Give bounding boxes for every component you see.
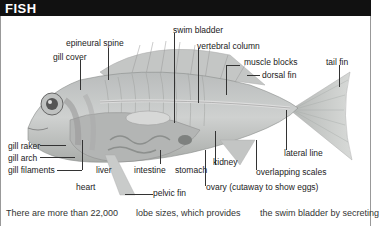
label-stomach: stomach [175,165,207,175]
label-gill-filaments: gill filaments [8,165,55,175]
label-lateral-line: lateral line [284,148,323,158]
body-text-column-2: lobe sizes, which provides [136,208,241,218]
label-gill-cover: gill cover [53,52,87,62]
label-muscle-blocks: muscle blocks [244,57,297,67]
leader-line [40,157,75,158]
leader-line [226,65,240,66]
leader-line [108,48,109,80]
leader-line [198,48,199,103]
label-pelvic-fin: pelvic fin [153,188,186,198]
label-ovary: ovary (cutaway to show eggs) [206,182,318,192]
label-intestine: intestine [134,165,166,175]
body-text-column-3: the swim bladder by secreting [260,208,379,218]
label-tail-fin: tail fin [326,57,348,67]
body-text-column-1: There are more than 22,000 [6,208,118,218]
leader-line [226,65,227,95]
label-dorsal-fin: dorsal fin [262,70,297,80]
leader-line [247,75,260,76]
leader-line [57,170,82,171]
leader-line [125,194,153,195]
leader-line [256,140,257,170]
label-kidney: kidney [213,157,238,167]
label-overlapping-scales: overlapping scales [256,167,326,177]
label-swim-bladder: swim bladder [173,25,223,35]
label-vertebral-column: vertebral column [197,41,260,51]
leader-line [174,33,175,123]
leader-line [339,65,340,87]
label-epineural-spine: epineural spine [66,38,124,48]
label-liver: liver [96,165,112,175]
label-heart: heart [76,182,95,192]
leader-line [82,140,83,170]
leader-line [160,150,161,164]
leader-line [40,145,66,146]
leader-line [286,110,287,150]
label-gill-raker: gill raker [8,141,40,151]
label-gill-arch: gill arch [8,153,37,163]
leader-line [80,60,81,90]
